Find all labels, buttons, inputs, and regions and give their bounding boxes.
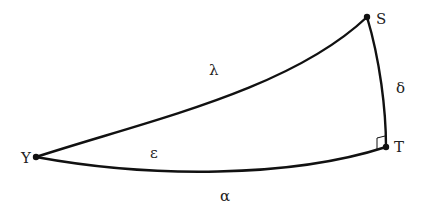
vertex-upsilon-dot <box>33 154 39 160</box>
vertex-upsilon-label: Υ <box>20 149 32 167</box>
vertex-t-label: T <box>394 138 404 156</box>
side-lambda-label: λ <box>209 61 219 79</box>
vertex-s-dot <box>364 14 370 20</box>
vertex-t-dot <box>383 144 389 150</box>
angle-epsilon-label: ε <box>150 144 158 162</box>
side-lambda <box>36 17 367 157</box>
side-delta-label: δ <box>396 79 405 97</box>
side-delta <box>367 17 386 147</box>
vertex-s-label: S <box>376 10 386 28</box>
spherical-triangle-diagram: Υ S T λ δ α ε <box>0 0 425 214</box>
side-alpha <box>36 147 386 172</box>
side-alpha-label: α <box>220 187 230 205</box>
